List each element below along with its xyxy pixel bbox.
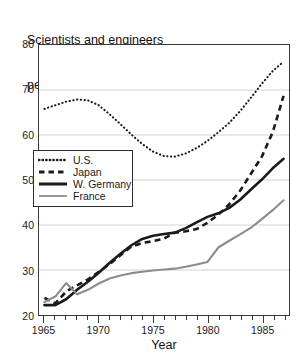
x-axis-minor-tick <box>87 316 88 320</box>
y-axis-tick-label: 50 <box>0 175 34 186</box>
x-axis-major-tick <box>208 316 209 323</box>
series-line-u-s <box>44 62 283 157</box>
x-axis-minor-tick <box>285 316 286 320</box>
x-axis-minor-tick <box>65 316 66 320</box>
solid-line-swatch <box>38 179 68 189</box>
x-axis-tick-label: 1980 <box>196 324 219 336</box>
x-axis-tick-label: 1975 <box>141 324 164 336</box>
x-axis-minor-tick <box>164 316 165 320</box>
x-axis-title: Year <box>38 338 290 352</box>
x-axis-major-tick <box>98 316 99 323</box>
x-axis-minor-tick <box>54 316 55 320</box>
x-axis-major-tick <box>153 316 154 323</box>
x-axis-tick-labels: 19651970197519801985 <box>38 324 290 338</box>
x-axis-tick-label: 1965 <box>32 324 55 336</box>
chart-legend: U.S.JapanW. GermanyFrance <box>33 150 133 207</box>
dotted-line-swatch <box>38 155 68 165</box>
x-axis-minor-tick <box>241 316 242 320</box>
y-axis-tick-labels: 80706050403020 <box>0 44 34 316</box>
y-axis-tick-label: 60 <box>0 130 34 141</box>
x-axis-minor-tick <box>186 316 187 320</box>
x-axis-minor-tick <box>252 316 253 320</box>
y-axis-tick-label: 80 <box>0 39 34 50</box>
y-axis-tick-label: 40 <box>0 220 34 231</box>
legend-item-label: U.S. <box>73 155 93 166</box>
x-axis-major-tick <box>43 316 44 323</box>
y-axis-tick-label: 20 <box>0 311 34 322</box>
x-axis-minor-tick <box>109 316 110 320</box>
legend-item: Japan <box>38 166 128 178</box>
dashed-line-swatch <box>38 167 68 177</box>
x-axis-minor-tick <box>175 316 176 320</box>
legend-item-label: W. Germany <box>73 179 131 190</box>
x-axis-minor-tick <box>219 316 220 320</box>
y-axis-tick-label: 70 <box>0 84 34 95</box>
x-axis-minor-tick <box>274 316 275 320</box>
x-axis-tick-label: 1970 <box>87 324 110 336</box>
legend-item-label: France <box>73 191 106 202</box>
x-axis-minor-tick <box>197 316 198 320</box>
legend-item: W. Germany <box>38 178 128 190</box>
x-axis-minor-tick <box>76 316 77 320</box>
x-axis-tick-label: 1985 <box>251 324 274 336</box>
legend-item-label: Japan <box>73 167 102 178</box>
x-axis-ticks <box>38 316 290 323</box>
chart-figure: Scientists and engineers per 10,000 labo… <box>0 0 303 355</box>
legend-item: France <box>38 190 128 202</box>
x-axis-minor-tick <box>120 316 121 320</box>
x-axis-minor-tick <box>230 316 231 320</box>
y-axis-tick-label: 30 <box>0 266 34 277</box>
x-axis-minor-tick <box>131 316 132 320</box>
gray-line-swatch <box>38 191 68 201</box>
x-axis-minor-tick <box>142 316 143 320</box>
legend-item: U.S. <box>38 154 128 166</box>
x-axis-major-tick <box>263 316 264 323</box>
